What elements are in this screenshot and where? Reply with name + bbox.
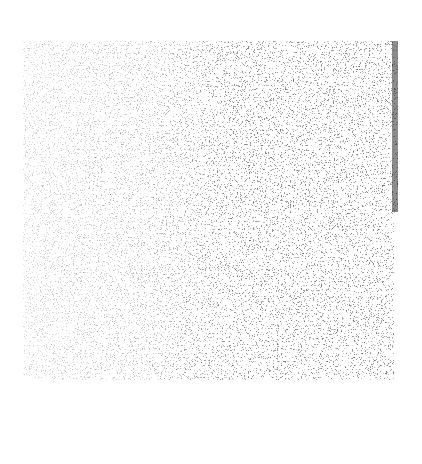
noise-texture-image [0, 0, 422, 464]
right-edge-strip [392, 41, 398, 212]
